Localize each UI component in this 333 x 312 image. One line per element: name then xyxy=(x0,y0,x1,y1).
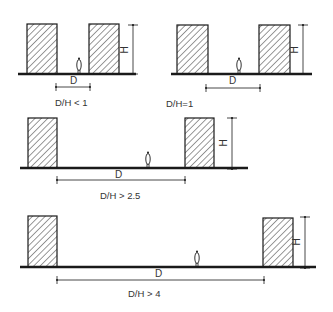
building-2 xyxy=(185,118,214,168)
panel-3: DHD/H > 2.5 xyxy=(20,117,248,201)
building-spacing-diagram: DHD/H < 1DHD/H=1DHD/H > 2.5DHD/H > 4 xyxy=(0,0,333,312)
person-icon xyxy=(77,58,81,75)
person-icon xyxy=(237,58,241,75)
building-2 xyxy=(259,25,290,74)
building-1 xyxy=(177,25,208,74)
distance-label: D xyxy=(155,268,162,279)
ratio-label: D/H > 2.5 xyxy=(100,190,140,201)
building-2 xyxy=(89,24,119,74)
ratio-label: D/H=1 xyxy=(166,98,193,109)
building-1 xyxy=(28,216,57,267)
height-label: H xyxy=(119,46,130,53)
person-icon xyxy=(146,152,150,169)
building-1 xyxy=(28,118,57,168)
distance-label: D xyxy=(70,75,77,86)
distance-label: D xyxy=(229,75,236,86)
ratio-label: D/H < 1 xyxy=(55,97,87,108)
distance-label: D xyxy=(115,169,122,180)
panel-2: DHD/H=1 xyxy=(166,24,312,109)
building-2 xyxy=(263,218,293,267)
ratio-label: D/H > 4 xyxy=(128,288,160,299)
height-label: H xyxy=(291,238,302,245)
panel-1: DHD/H < 1 xyxy=(18,24,138,108)
height-label: H xyxy=(289,46,300,53)
person-icon xyxy=(195,251,199,268)
height-label: H xyxy=(218,139,229,146)
panel-4: DHD/H > 4 xyxy=(20,216,316,299)
building-1 xyxy=(27,24,57,74)
